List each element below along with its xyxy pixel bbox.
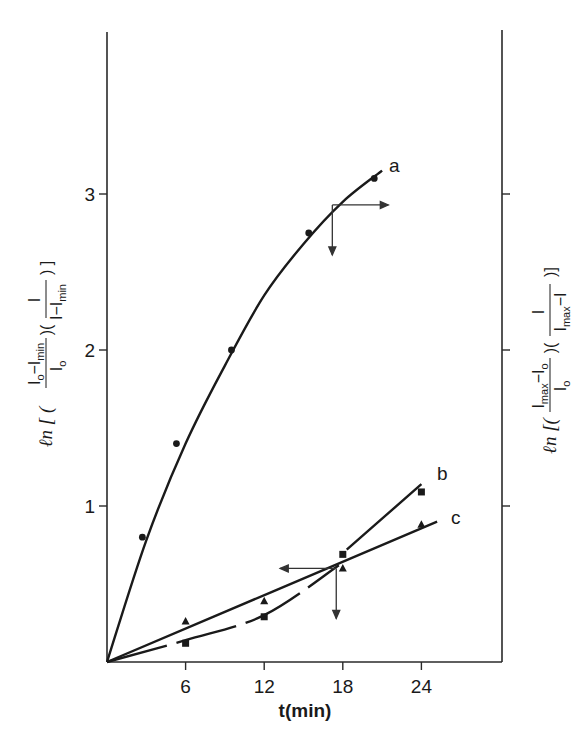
triangle-marker-icon xyxy=(260,597,268,605)
svg-text:Io−Imin: Io−Imin xyxy=(26,343,46,385)
svg-text:I: I xyxy=(530,310,547,314)
arrow-left-icon-head xyxy=(280,565,288,572)
square-marker-icon xyxy=(261,613,268,620)
svg-text:ℓn [ (: ℓn [ ( xyxy=(35,405,57,447)
triangle-marker-icon xyxy=(339,564,347,572)
triangle-marker-icon xyxy=(182,617,190,625)
series-b-line xyxy=(347,484,422,550)
data-markers xyxy=(139,175,425,647)
square-marker-icon xyxy=(339,551,346,558)
triangle-marker-icon xyxy=(417,520,425,528)
circle-marker-icon xyxy=(139,534,146,541)
x-tick-label: 6 xyxy=(180,676,191,697)
annotation-arrows xyxy=(280,201,388,618)
svg-text:Io: Io xyxy=(48,361,68,372)
square-marker-icon xyxy=(418,488,425,495)
series-a-label: a xyxy=(389,155,400,176)
ylabel-left-prefix: ℓn [ ( xyxy=(35,405,57,447)
tick-marks xyxy=(99,194,510,670)
tick-labels: 6121824123 xyxy=(84,184,432,697)
x-tick-label: 18 xyxy=(332,676,353,697)
kinetics-chart: 6121824123 t(min) ℓn [ ( Io−Imin Io )( I… xyxy=(0,0,587,735)
svg-text:Imax−Io: Imax−Io xyxy=(530,363,550,408)
series-c-line xyxy=(107,522,437,662)
right-y-axis-title: ℓn [( Imax−Io Io )( I Imax−I )] xyxy=(530,267,572,454)
series-labels: abc xyxy=(389,155,461,528)
x-tick-label: 24 xyxy=(411,676,433,697)
arrow-down-icon-head xyxy=(333,610,340,618)
arrow-right-icon-head xyxy=(380,201,388,208)
svg-text:Io: Io xyxy=(552,381,572,392)
series-c-label: c xyxy=(451,507,461,528)
circle-marker-icon xyxy=(228,347,235,354)
svg-text:I−Imin: I−Imin xyxy=(48,284,68,320)
square-marker-icon xyxy=(182,640,189,647)
y-tick-label: 3 xyxy=(84,184,95,205)
svg-text:)(: )( xyxy=(542,342,559,353)
svg-text:) ]: ) ] xyxy=(38,261,55,275)
series-a-line xyxy=(107,171,382,662)
svg-text:ℓn [(: ℓn [( xyxy=(539,416,561,454)
axes xyxy=(107,30,502,662)
circle-marker-icon xyxy=(305,230,312,237)
arrow-down-icon-head xyxy=(329,247,336,255)
left-y-axis-title: ℓn [ ( Io−Imin Io )( I I−Imin ) ] xyxy=(26,261,68,447)
svg-text:Imax−I: Imax−I xyxy=(552,292,572,331)
circle-marker-icon xyxy=(371,175,378,182)
y-tick-label: 2 xyxy=(84,340,95,361)
series-lines xyxy=(107,171,437,662)
series-b-label: b xyxy=(437,463,448,484)
x-tick-label: 12 xyxy=(254,676,275,697)
y-tick-label: 1 xyxy=(84,496,95,517)
x-axis-title: t(min) xyxy=(279,700,332,721)
svg-text:I: I xyxy=(26,298,43,302)
svg-text:)(: )( xyxy=(38,324,55,335)
svg-text:)]: )] xyxy=(542,267,559,277)
circle-marker-icon xyxy=(173,440,180,447)
